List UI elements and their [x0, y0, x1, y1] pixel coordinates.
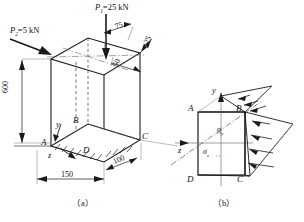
figa-point-d: D	[83, 146, 90, 155]
figb-axis-y: y	[212, 86, 216, 95]
load-p1-label: P1=25 kN	[95, 3, 129, 14]
load-p2-arrow	[10, 39, 52, 55]
figb-axis-z: z	[178, 146, 181, 155]
load-p2-label: P2=5 kN	[10, 26, 39, 37]
figa-point-c: C	[142, 132, 148, 141]
caption-b: （b）	[213, 199, 235, 208]
sigma-z-label: σz	[203, 148, 209, 159]
section-rectangle	[198, 112, 245, 175]
figb-point-c: C	[237, 175, 243, 184]
dim-150-label: 150	[61, 171, 73, 179]
stress-wedge-upper	[221, 86, 272, 112]
figa-point-a: A	[41, 138, 47, 147]
figb-point-a: A	[188, 104, 194, 113]
sigma-y-label: σy	[217, 126, 223, 137]
dim-600-label: 600	[2, 81, 10, 93]
caption-a: （a）	[72, 199, 94, 208]
engineering-figure	[0, 0, 304, 222]
figb-point-d: D	[187, 175, 194, 184]
dim-600-line	[14, 59, 51, 143]
column-bottom-face	[51, 124, 140, 162]
figure-b-section	[171, 86, 293, 186]
figa-axis-z: z	[48, 151, 51, 160]
projection-line-a	[198, 96, 221, 112]
figa-axis-y: y	[56, 120, 60, 129]
figure-a-column	[10, 14, 178, 184]
figb-point-b: B	[236, 104, 242, 113]
stress-arrows-lower	[248, 121, 274, 169]
figa-point-b: B	[73, 116, 79, 125]
